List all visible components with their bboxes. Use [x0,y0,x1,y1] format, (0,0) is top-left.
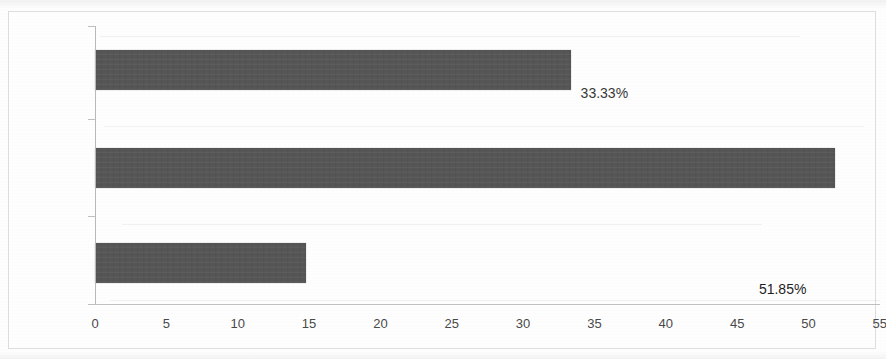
y-axis-tick-3 [88,216,95,217]
x-tick-label-10: 10 [230,316,244,331]
x-tick-label-40: 40 [659,316,673,331]
scan-edge-bottom [0,351,886,359]
y-axis-tick-4 [88,304,95,305]
bar-chart-figure: A.经常会33.33%B.偶尔会51.85%C.不会14.81% 0510152… [0,0,886,359]
x-tick-label-55: 55 [873,316,886,331]
plot-area: A.经常会33.33%B.偶尔会51.85%C.不会14.81% [95,26,880,304]
x-tick-label-35: 35 [587,316,601,331]
x-tick-label-30: 30 [516,316,530,331]
x-tick-label-15: 15 [302,316,316,331]
y-axis-tick-1 [88,26,95,27]
bar-3 [95,243,306,283]
x-tick-label-0: 0 [91,316,98,331]
y-axis-line [95,26,96,304]
bar-2 [95,148,835,188]
value-label-1: 33.33% [581,85,628,101]
scan-edge-top [0,0,886,9]
x-tick-label-25: 25 [445,316,459,331]
y-axis-tick-2 [88,119,95,120]
value-label-2: 51.85% [759,281,806,297]
x-axis-line [95,304,880,305]
bar-1 [95,50,571,90]
x-tick-label-45: 45 [730,316,744,331]
x-tick-label-20: 20 [373,316,387,331]
x-tick-label-50: 50 [801,316,815,331]
x-tick-label-5: 5 [163,316,170,331]
